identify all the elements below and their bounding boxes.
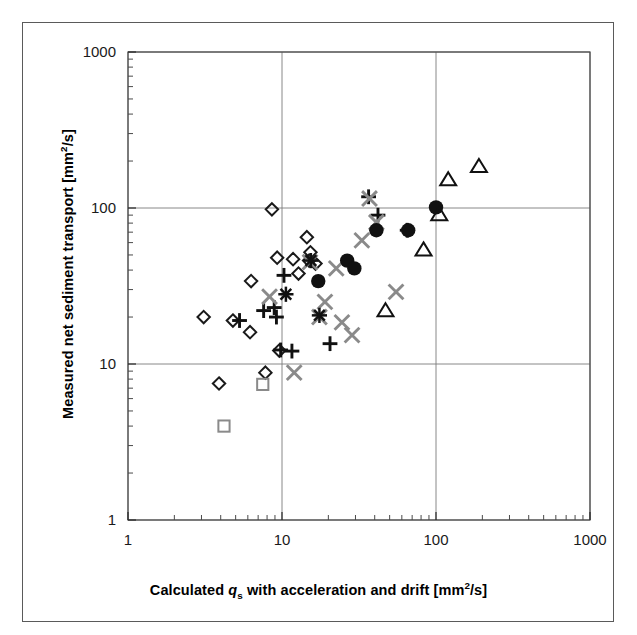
data-point-circle-3 bbox=[369, 223, 383, 237]
marker-diamond bbox=[301, 231, 313, 243]
data-point-square-1 bbox=[218, 420, 229, 431]
data-point-star-2 bbox=[312, 308, 327, 323]
marker-diamond bbox=[287, 253, 299, 265]
data-point-triangle-1 bbox=[440, 172, 456, 185]
data-point-plus-0 bbox=[256, 303, 271, 318]
marker-diamond bbox=[271, 252, 283, 264]
series-plus bbox=[232, 189, 414, 358]
data-point-circle-4 bbox=[401, 223, 415, 237]
data-point-cross-6 bbox=[354, 233, 369, 248]
data-point-cross-2 bbox=[318, 295, 333, 310]
marker-triangle bbox=[440, 172, 456, 185]
data-point-diamond-4 bbox=[301, 231, 313, 243]
marker-triangle bbox=[378, 303, 394, 316]
y-axis-title: Measured net sediment transport [mm2/s] bbox=[60, 129, 76, 419]
plot-frame bbox=[128, 52, 590, 520]
marker-circle bbox=[311, 274, 325, 288]
data-points-group bbox=[197, 159, 486, 432]
marker-diamond bbox=[197, 311, 209, 323]
marker-circle bbox=[401, 223, 415, 237]
y-axis-title-tail: /s] bbox=[60, 129, 76, 146]
data-point-cross-9 bbox=[389, 284, 404, 299]
tick-group bbox=[128, 52, 590, 520]
x-axis-title-tail: /s] bbox=[470, 582, 487, 598]
data-point-star-1 bbox=[303, 253, 318, 268]
marker-circle bbox=[347, 261, 361, 275]
data-point-cross-4 bbox=[335, 315, 350, 330]
data-point-triangle-2 bbox=[471, 159, 487, 172]
y-axis-title-superscript: 2 bbox=[58, 146, 69, 152]
marker-triangle bbox=[471, 159, 487, 172]
x-axis-title-pre: Calculated bbox=[150, 582, 228, 598]
marker-square bbox=[218, 420, 229, 431]
data-point-diamond-9 bbox=[244, 326, 256, 338]
data-point-diamond-1 bbox=[271, 252, 283, 264]
x-axis-title: Calculated qs with acceleration and drif… bbox=[0, 580, 637, 601]
x-tick-label-10: 10 bbox=[252, 531, 312, 548]
data-point-circle-0 bbox=[311, 274, 325, 288]
y-axis-title-pre: Measured net sediment transport [mm bbox=[60, 152, 76, 419]
data-point-square-0 bbox=[257, 379, 268, 390]
x-tick-label-100: 100 bbox=[406, 531, 466, 548]
data-point-diamond-2 bbox=[287, 253, 299, 265]
x-axis-title-variable: q bbox=[228, 582, 237, 598]
series-square bbox=[218, 379, 268, 432]
data-point-diamond-13 bbox=[245, 275, 257, 287]
marker-diamond bbox=[245, 275, 257, 287]
data-point-triangle-3 bbox=[416, 242, 432, 255]
grid-group bbox=[128, 52, 590, 520]
marker-circle bbox=[369, 223, 383, 237]
axis-frame-group bbox=[128, 52, 590, 520]
marker-diamond bbox=[259, 366, 271, 378]
x-axis-title-post: with acceleration and drift [mm bbox=[243, 582, 465, 598]
data-point-plus-6 bbox=[277, 268, 292, 283]
data-point-circle-2 bbox=[347, 261, 361, 275]
data-point-diamond-7 bbox=[197, 311, 209, 323]
series-diamond bbox=[197, 203, 321, 390]
x-tick-label-1: 1 bbox=[98, 531, 158, 548]
marker-diamond bbox=[266, 203, 278, 215]
marker-diamond bbox=[213, 377, 225, 389]
data-point-cross-11 bbox=[262, 289, 277, 304]
data-point-diamond-0 bbox=[266, 203, 278, 215]
marker-square bbox=[257, 379, 268, 390]
data-point-diamond-11 bbox=[213, 377, 225, 389]
data-point-triangle-4 bbox=[378, 303, 394, 316]
data-point-cross-0 bbox=[287, 365, 302, 380]
data-point-cross-5 bbox=[345, 328, 360, 343]
figure-container: 1000 100 10 1 1 10 100 1000 Calculated q… bbox=[0, 0, 637, 635]
marker-diamond bbox=[244, 326, 256, 338]
data-point-diamond-12 bbox=[259, 366, 271, 378]
data-point-star-0 bbox=[278, 287, 293, 302]
y-axis-title-wrapper: Measured net sediment transport [mm2/s] bbox=[58, 24, 77, 524]
x-tick-label-1000: 1000 bbox=[560, 531, 620, 548]
marker-triangle bbox=[416, 242, 432, 255]
scatter-plot bbox=[0, 0, 637, 635]
data-point-plus-5 bbox=[285, 344, 300, 359]
data-point-plus-8 bbox=[323, 336, 338, 351]
